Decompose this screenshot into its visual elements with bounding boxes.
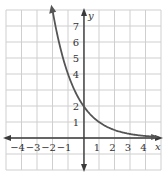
y-axis-label: y — [87, 10, 94, 21]
x-axis-left-arrow — [3, 135, 11, 141]
svg-text:−1: −1 — [57, 142, 72, 153]
y-tick-labels: 124567 — [73, 21, 79, 128]
svg-text:7: 7 — [73, 21, 79, 32]
svg-text:−4: −4 — [10, 142, 25, 153]
svg-text:1: 1 — [73, 117, 79, 128]
svg-text:4: 4 — [73, 69, 79, 80]
svg-text:3: 3 — [125, 142, 131, 153]
svg-text:−2: −2 — [41, 142, 56, 153]
svg-text:5: 5 — [73, 53, 79, 64]
svg-text:4: 4 — [140, 142, 146, 153]
svg-text:−3: −3 — [26, 142, 41, 153]
svg-text:1: 1 — [94, 142, 100, 153]
svg-text:2: 2 — [109, 142, 115, 153]
y-axis-down-arrow — [81, 164, 87, 172]
curve-arrow-top — [49, 5, 56, 14]
svg-text:6: 6 — [73, 37, 79, 48]
x-axis-label: x — [155, 141, 161, 152]
exponential-graph: x y −4−3−2−11234 124567 — [0, 0, 168, 179]
x-tick-labels: −4−3−2−11234 — [10, 142, 147, 153]
svg-text:2: 2 — [73, 101, 79, 112]
y-axis-up-arrow — [81, 8, 87, 16]
